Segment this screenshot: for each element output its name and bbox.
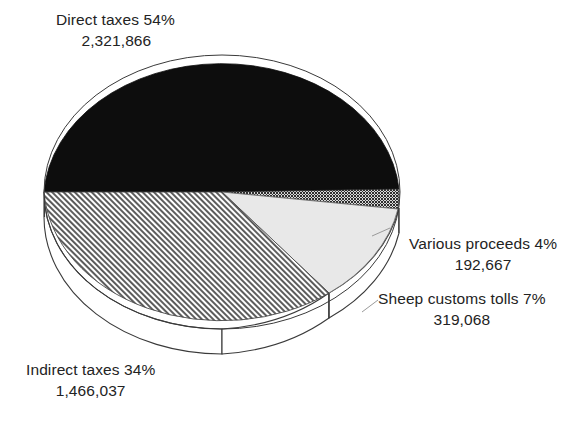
pie-chart-figure: Direct taxes 54% 2,321,866 Various proce… <box>0 0 583 421</box>
pie-label-direct-taxes: Direct taxes 54% 2,321,866 <box>56 10 175 51</box>
pie-label-various-proceeds-name: Various proceeds 4% <box>409 234 557 255</box>
pie-label-indirect-taxes-value: 1,466,037 <box>26 381 155 402</box>
pie-label-sheep-customs-tolls-value: 319,068 <box>378 310 546 331</box>
pie-label-indirect-taxes: Indirect taxes 34% 1,466,037 <box>26 360 155 401</box>
pie-label-direct-taxes-name: Direct taxes 54% <box>56 10 175 31</box>
pie-label-direct-taxes-value: 2,321,866 <box>58 31 175 52</box>
pie-label-indirect-taxes-name: Indirect taxes 34% <box>26 360 155 381</box>
pie-label-various-proceeds: Various proceeds 4% 192,667 <box>409 234 557 275</box>
pie-label-sheep-customs-tolls: Sheep customs tolls 7% 319,068 <box>378 289 546 330</box>
pie-chart-graphic <box>0 0 583 421</box>
pie-label-various-proceeds-value: 192,667 <box>409 255 557 276</box>
pie-label-sheep-customs-tolls-name: Sheep customs tolls 7% <box>378 289 546 310</box>
pie-slice-direct-taxes <box>44 64 399 192</box>
